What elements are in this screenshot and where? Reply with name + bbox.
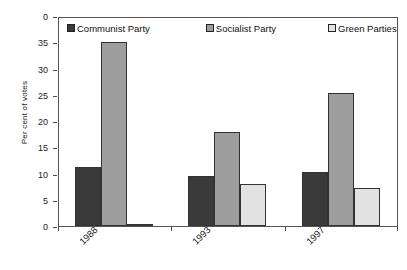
y-tick-label: 0 (22, 12, 48, 22)
y-tick-label: 0 (22, 222, 48, 232)
y-tick-label: 25 (22, 91, 48, 101)
y-tick-mark (53, 96, 57, 97)
bar-group-1997 (302, 18, 380, 226)
bar-1988-socialist-party (101, 42, 127, 226)
bar-1988-communist-party (75, 167, 101, 226)
bar-1997-socialist-party (328, 93, 354, 226)
y-tick-mark (53, 43, 57, 44)
x-tick-label-1997: 1997 (304, 224, 327, 247)
y-tick-label: 35 (22, 38, 48, 48)
bar-1988-green-parties (127, 224, 153, 226)
bar-1997-communist-party (302, 172, 328, 226)
x-axis-tick-labels: 198819931997 (58, 227, 398, 270)
y-tick-label: 10 (22, 170, 48, 180)
plot-area (59, 18, 397, 226)
bar-1997-green-parties (354, 188, 380, 226)
y-tick-mark (53, 148, 57, 149)
bar-1993-green-parties (240, 184, 266, 226)
y-tick-label: 30 (22, 65, 48, 75)
bar-1993-socialist-party (214, 132, 240, 227)
plot-frame: Communist Party Socialist Party Green Pa… (58, 17, 398, 227)
y-tick-mark (53, 70, 57, 71)
y-tick-mark (53, 122, 57, 123)
y-axis-tick-labels: 035302520151050 (22, 0, 48, 270)
y-tick-label: 15 (22, 143, 48, 153)
y-tick-mark (53, 175, 57, 176)
bar-chart: Per cent of votes 035302520151050 Commun… (0, 0, 407, 270)
y-tick-label: 20 (22, 117, 48, 127)
y-tick-mark (53, 227, 57, 228)
y-tick-label: 5 (22, 196, 48, 206)
x-tick-label-1988: 1988 (77, 224, 100, 247)
bar-group-1988 (75, 18, 153, 226)
x-tick-label-1993: 1993 (190, 224, 213, 247)
bar-group-1993 (188, 18, 266, 226)
y-tick-mark (53, 17, 57, 18)
bar-1993-communist-party (188, 176, 214, 226)
y-tick-mark (53, 201, 57, 202)
